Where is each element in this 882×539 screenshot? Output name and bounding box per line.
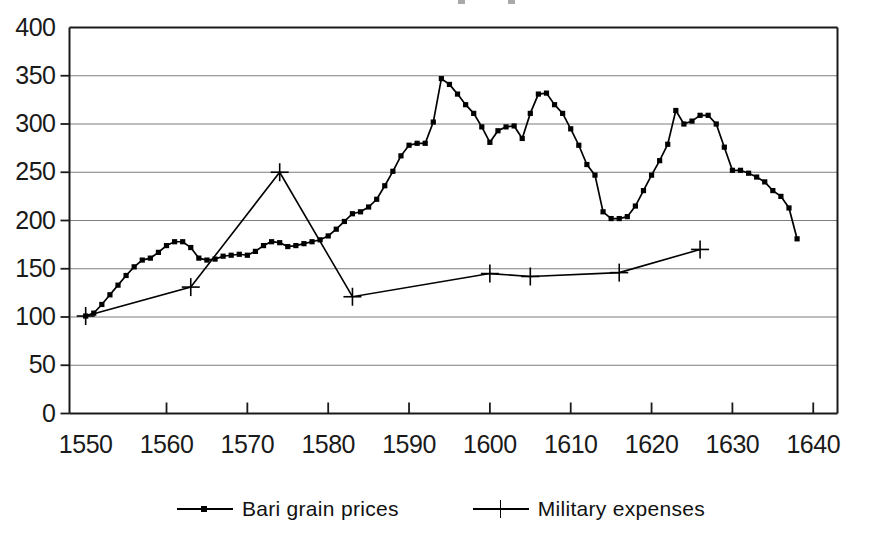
chart-figure: 050100150200250300350400 155015601570158… — [0, 0, 882, 539]
legend-label-bari-grain-prices: Bari grain prices — [242, 497, 399, 521]
x-tick-label-1550: 1550 — [46, 432, 126, 457]
x-tick-label-1620: 1620 — [612, 432, 692, 457]
x-tick-label-1630: 1630 — [692, 432, 772, 457]
y-tick-label-0: 0 — [42, 401, 55, 426]
series-bari-grain-prices-line — [86, 79, 797, 316]
y-tick-label-400: 400 — [15, 15, 55, 40]
series-military-expenses-line — [86, 172, 700, 316]
x-tick-label-1580: 1580 — [288, 432, 368, 457]
legend-entry-bari-grain-prices[interactable]: Bari grain prices — [177, 497, 399, 521]
x-tick-label-1570: 1570 — [207, 432, 287, 457]
series-military-expenses-markers — [77, 163, 709, 325]
chart-plot-area — [0, 0, 882, 539]
x-tick-label-1590: 1590 — [369, 432, 449, 457]
line-dot-marker-icon — [177, 500, 233, 518]
x-tick-label-1560: 1560 — [127, 432, 207, 457]
y-tick-label-250: 250 — [15, 159, 55, 184]
gridlines — [70, 76, 838, 366]
line-plus-marker-icon — [473, 500, 529, 518]
x-tick-label-1640: 1640 — [773, 432, 853, 457]
y-tick-label-300: 300 — [15, 111, 55, 136]
x-tick-label-1600: 1600 — [450, 432, 530, 457]
chart-legend: Bari grain prices Military expenses — [0, 489, 882, 529]
legend-label-military-expenses: Military expenses — [538, 497, 705, 521]
legend-entry-military-expenses[interactable]: Military expenses — [473, 497, 705, 521]
y-tick-label-200: 200 — [15, 208, 55, 233]
x-tick-label-1610: 1610 — [531, 432, 611, 457]
y-tick-label-150: 150 — [15, 256, 55, 281]
y-tick-label-100: 100 — [15, 304, 55, 329]
y-tick-label-50: 50 — [29, 352, 56, 377]
y-tick-label-350: 350 — [15, 63, 55, 88]
